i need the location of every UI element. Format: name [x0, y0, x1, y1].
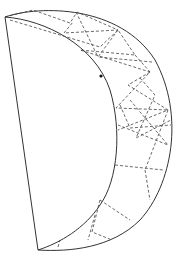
ray-path	[145, 110, 168, 170]
ray-path	[5, 10, 118, 33]
diagram-svg	[0, 0, 176, 258]
ray-path	[116, 55, 168, 110]
chord-line	[5, 17, 38, 250]
ray-path	[64, 22, 73, 33]
ray-path	[100, 200, 130, 220]
reflected-rays	[5, 10, 171, 247]
ray-path	[115, 165, 163, 170]
marker-dot	[99, 74, 102, 77]
lune-diagram	[0, 0, 176, 258]
outer-arc	[5, 11, 172, 251]
ray-path	[10, 20, 150, 72]
ray-path	[145, 170, 150, 200]
